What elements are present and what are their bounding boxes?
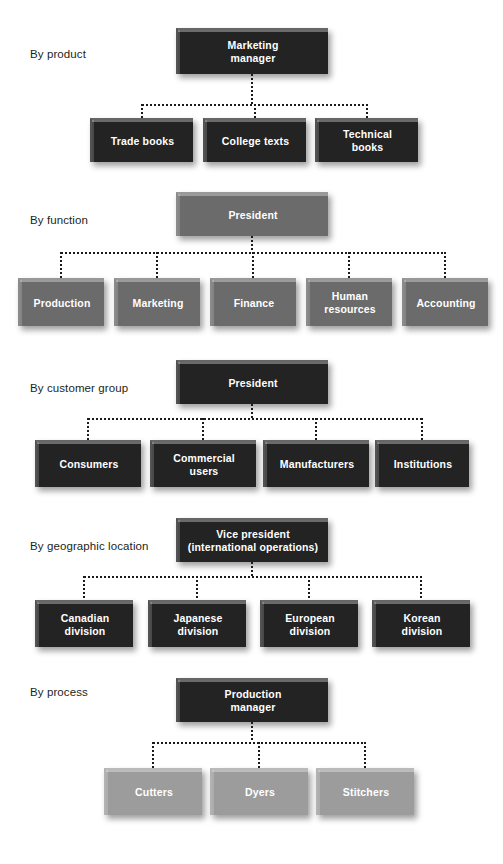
node-label-line: Consumers — [59, 458, 118, 471]
node-label-line: Japanese — [173, 612, 222, 625]
node-label: College texts — [222, 135, 289, 148]
connector-drop-by-function-4 — [444, 252, 446, 278]
node-label-line: President — [228, 377, 277, 390]
connector-drop-by-geographic-location-2 — [308, 576, 310, 600]
connector-drop-by-function-2 — [252, 252, 254, 278]
node-dyers[interactable]: Dyers — [210, 768, 308, 815]
node-label-line: Production — [225, 688, 282, 701]
row-label-by-function: By function — [30, 214, 88, 226]
node-label-line: Finance — [234, 297, 275, 310]
row-label-by-product: By product — [30, 48, 86, 60]
node-label: Koreandivision — [402, 612, 443, 638]
node-label: President — [228, 377, 277, 390]
node-label-line: manager — [225, 701, 282, 714]
node-label-line: division — [285, 625, 335, 638]
connector-drop-by-product-0 — [141, 104, 143, 118]
node-label-line: division — [173, 625, 222, 638]
node-accounting[interactable]: Accounting — [402, 278, 488, 326]
node-label: Dyers — [245, 786, 275, 799]
node-consumers[interactable]: Consumers — [35, 440, 141, 487]
node-parent-by-product[interactable]: Marketingmanager — [176, 28, 328, 74]
node-stitchers[interactable]: Stitchers — [316, 768, 414, 815]
node-label-line: Cutters — [135, 786, 173, 799]
node-label-line: Manufacturers — [280, 458, 354, 471]
node-label: Marketing — [133, 297, 184, 310]
node-label: Technicalbooks — [343, 128, 392, 154]
connector-bus-by-customer-group — [88, 418, 422, 420]
connector-drop-by-customer-group-0 — [87, 418, 89, 440]
connector-drop-by-geographic-location-3 — [420, 576, 422, 600]
node-korean-division[interactable]: Koreandivision — [372, 600, 470, 647]
node-label-line: Stitchers — [343, 786, 389, 799]
node-label-line: Commercial — [173, 452, 235, 465]
connector-drop-by-product-2 — [366, 104, 368, 118]
connector-drop-by-customer-group-3 — [421, 418, 423, 440]
connector-drop-by-process-1 — [258, 742, 260, 768]
node-label-line: European — [285, 612, 335, 625]
connector-drop-by-process-0 — [152, 742, 154, 768]
node-label: Manufacturers — [280, 458, 354, 471]
node-label-line: Trade books — [111, 135, 175, 148]
node-cutters[interactable]: Cutters — [104, 768, 202, 815]
connector-stem-by-geographic-location — [251, 562, 253, 576]
node-finance[interactable]: Finance — [210, 278, 296, 326]
node-college-texts[interactable]: College texts — [203, 118, 306, 162]
node-parent-by-customer-group[interactable]: President — [176, 360, 328, 404]
node-label: Humanresources — [324, 290, 376, 316]
node-production[interactable]: Production — [18, 278, 104, 326]
node-technical-books[interactable]: Technicalbooks — [315, 118, 418, 162]
connector-drop-by-customer-group-1 — [202, 418, 204, 440]
node-parent-by-geographic-location[interactable]: Vice president(international operations) — [176, 518, 328, 562]
node-manufacturers[interactable]: Manufacturers — [263, 440, 369, 487]
row-label-by-customer-group: By customer group — [30, 382, 128, 394]
node-label-line: Vice president — [188, 528, 319, 541]
node-label-line: (international operations) — [188, 541, 319, 554]
node-label-line: resources — [324, 303, 376, 316]
node-label-line: Marketing — [133, 297, 184, 310]
row-label-by-process: By process — [30, 686, 88, 698]
node-canadian-division[interactable]: Canadiandivision — [35, 600, 133, 647]
node-marketing[interactable]: Marketing — [114, 278, 200, 326]
node-label: Finance — [234, 297, 275, 310]
node-label-line: Accounting — [416, 297, 475, 310]
node-label: Cutters — [135, 786, 173, 799]
node-label: Productionmanager — [225, 688, 282, 714]
node-label: Vice president(international operations) — [188, 528, 319, 554]
node-label-line: Technical — [343, 128, 392, 141]
node-european-division[interactable]: Europeandivision — [260, 600, 358, 647]
row-label-by-geographic-location: By geographic location — [30, 540, 149, 552]
node-label-line: manager — [228, 52, 279, 65]
node-label: Institutions — [394, 458, 452, 471]
node-commercial-users[interactable]: Commercialusers — [150, 440, 256, 487]
node-label: Trade books — [111, 135, 175, 148]
node-label: Consumers — [59, 458, 118, 471]
node-label: Japanesedivision — [173, 612, 222, 638]
connector-drop-by-function-3 — [348, 252, 350, 278]
node-label: President — [228, 209, 277, 222]
node-label-line: President — [228, 209, 277, 222]
node-label: Europeandivision — [285, 612, 335, 638]
node-trade-books[interactable]: Trade books — [90, 118, 193, 162]
node-parent-by-process[interactable]: Productionmanager — [176, 678, 328, 722]
connector-drop-by-geographic-location-0 — [83, 576, 85, 600]
node-label-line: books — [343, 141, 392, 154]
connector-drop-by-process-2 — [364, 742, 366, 768]
node-institutions[interactable]: Institutions — [375, 440, 469, 487]
node-label: Marketingmanager — [228, 39, 279, 65]
node-label: Canadiandivision — [61, 612, 109, 638]
connector-stem-by-process — [251, 722, 253, 742]
connector-drop-by-customer-group-2 — [315, 418, 317, 440]
node-label-line: division — [61, 625, 109, 638]
connector-drop-by-product-1 — [254, 104, 256, 118]
connector-bus-by-geographic-location — [84, 576, 421, 578]
node-label: Commercialusers — [173, 452, 235, 478]
node-japanese-division[interactable]: Japanesedivision — [148, 600, 246, 647]
node-parent-by-function[interactable]: President — [176, 192, 328, 236]
node-label-line: Canadian — [61, 612, 109, 625]
node-label: Production — [34, 297, 91, 310]
connector-drop-by-function-0 — [60, 252, 62, 278]
node-human-resources[interactable]: Humanresources — [306, 278, 392, 326]
node-label-line: Human — [324, 290, 376, 303]
connector-stem-by-customer-group — [251, 404, 253, 418]
node-label-line: Institutions — [394, 458, 452, 471]
